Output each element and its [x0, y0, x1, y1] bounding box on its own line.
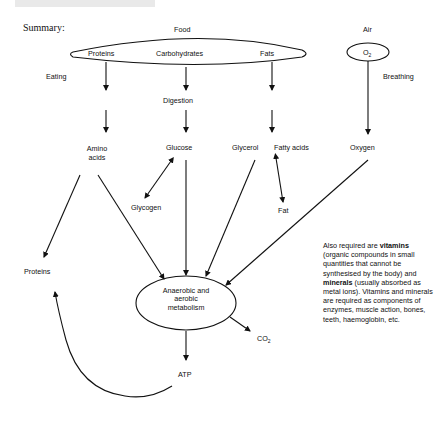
glucose-label: Glucose — [166, 144, 192, 152]
eating-label: Eating — [46, 73, 66, 81]
oxygen-label: Oxygen — [350, 144, 375, 152]
proteins-output-label: Proteins — [24, 268, 50, 276]
fatty-acids-label: Fatty acids — [274, 144, 309, 152]
note-bold-minerals: minerals — [323, 278, 353, 287]
vitamins-minerals-note: Also required are vitamins (organic comp… — [323, 241, 433, 324]
food-item-carbohydrates: Carbohydrates — [156, 50, 203, 58]
fat-label: Fat — [278, 207, 288, 215]
summary-label: Summary: — [23, 24, 65, 32]
glycogen-label: Glycogen — [131, 204, 161, 212]
amino-acids-label: Amino acids — [82, 144, 112, 162]
metabolism-diagram: Summary: Food Air Proteins Carbohydrates… — [0, 0, 444, 447]
note-text-2: (organic compounds in small quantities t… — [323, 250, 417, 277]
co2-sub: 2 — [268, 338, 271, 344]
note-text-1: Also required are — [323, 241, 380, 250]
co2-label: CO2 — [257, 335, 271, 346]
o2-sub: 2 — [369, 52, 372, 58]
diagram-arrows — [0, 0, 444, 447]
air-label: Air — [363, 26, 372, 34]
co2-main: CO — [257, 334, 268, 343]
food-item-proteins: Proteins — [88, 50, 114, 58]
metabolism-label: Anaerobic and aerobic metabolism — [146, 287, 226, 312]
food-label: Food — [174, 26, 190, 34]
glycerol-label: Glycerol — [232, 144, 258, 152]
metabolism-line-3: metabolism — [146, 304, 226, 312]
digestion-label: Digestion — [163, 97, 193, 105]
breathing-label: Breathing — [383, 73, 414, 81]
note-bold-vitamins: vitamins — [380, 241, 409, 250]
o2-label: O2 — [363, 49, 371, 60]
atp-label: ATP — [178, 371, 191, 379]
food-item-fats: Fats — [260, 50, 274, 58]
